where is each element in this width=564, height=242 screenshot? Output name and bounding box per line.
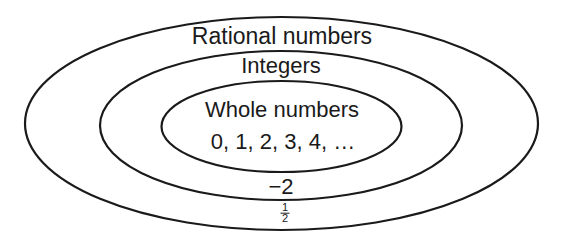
number-sets-diagram: Rational numbers Integers Whole numbers … [0, 0, 564, 242]
fraction-denominator: 2 [282, 212, 288, 224]
whole-numbers-ellipse [162, 81, 402, 172]
rational-numbers-label: Rational numbers [192, 23, 372, 49]
rational-example-fraction: 1 2 [281, 201, 290, 224]
integers-label: Integers [241, 53, 321, 78]
integer-example-label: −2 [268, 174, 293, 199]
whole-numbers-examples: 0, 1, 2, 3, 4, … [211, 129, 355, 154]
whole-numbers-label: Whole numbers [205, 97, 359, 122]
